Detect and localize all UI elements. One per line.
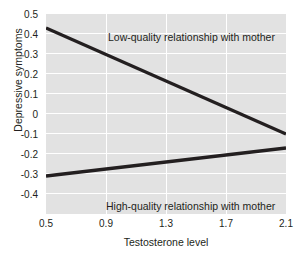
series-line-high-quality [46,148,286,176]
y-axis-tick-label: 0.3 [8,49,38,60]
x-axis-tick-label: 1.7 [206,218,246,229]
y-axis-tick-label: 0 [8,109,38,120]
y-axis-tick-label: -0.1 [8,129,38,140]
plot-area: Low-quality relationship with mother Hig… [46,14,286,214]
x-axis-tick-label: 1.3 [146,218,186,229]
y-axis-tick-label: 0.2 [8,69,38,80]
y-axis-tick-label: 0.5 [8,9,38,20]
y-axis-tick-label: -0.3 [8,169,38,180]
series-annotation-low-quality: Low-quality relationship with mother [108,31,275,43]
y-axis-tick-label: 0.1 [8,89,38,100]
series-line-low-quality [46,28,286,134]
y-axis-tick-label: -0.4 [8,189,38,200]
x-axis-title: Testosterone level [46,236,286,248]
x-axis-tick-label: 0.5 [26,218,66,229]
series-lines [46,14,286,214]
y-axis-tick-label: 0.4 [8,29,38,40]
x-axis-tick-label: 0.9 [86,218,126,229]
chart-figure: Depressive symptoms 0.5 0.4 0.3 0.2 0.1 … [0,0,300,256]
series-annotation-high-quality: High-quality relationship with mother [106,200,275,212]
x-axis-tick-label: 2.1 [266,218,300,229]
y-axis-tick-label: -0.2 [8,149,38,160]
